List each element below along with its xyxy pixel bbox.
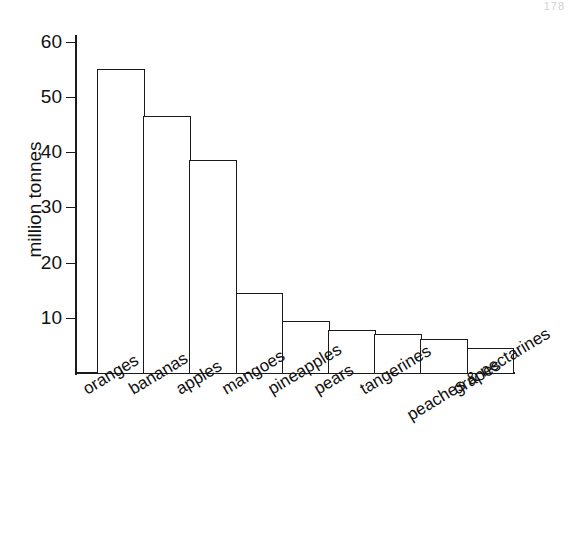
x-axis-category-labels: orangesbananasapplesmangoespineapplespea…	[0, 373, 579, 557]
y-tick-30	[66, 207, 75, 208]
y-tick-20	[66, 263, 75, 264]
bar-series	[97, 0, 517, 373]
bar-oranges[interactable]	[97, 69, 145, 373]
y-tick-10	[66, 318, 75, 319]
bar-bananas[interactable]	[143, 116, 191, 373]
y-tick-label-10: 10	[18, 308, 62, 327]
bar-apples[interactable]	[189, 160, 237, 373]
bar-chart: 102030405060 million tonnes orangesbanan…	[0, 0, 579, 557]
y-tick-label-text: 50	[22, 87, 62, 106]
y-axis-title: million tonnes	[25, 130, 44, 270]
y-tick-label-text: 10	[22, 308, 62, 327]
y-tick-60	[66, 42, 75, 43]
y-tick-label-50: 50	[18, 87, 62, 106]
y-tick-40	[66, 152, 75, 153]
y-tick-50	[66, 97, 75, 98]
y-axis-line	[75, 35, 77, 375]
y-tick-label-60: 60	[18, 32, 62, 51]
y-tick-label-text: 60	[22, 32, 62, 51]
